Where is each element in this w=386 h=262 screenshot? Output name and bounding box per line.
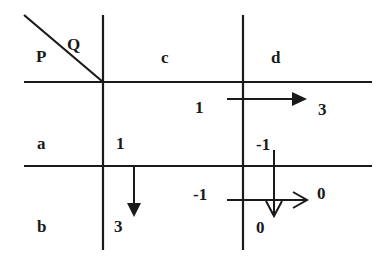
cell-ad-left-payoff: 1 [195,98,204,117]
cell-bd-left-payoff: -1 [193,185,207,204]
cell-ad-top-payoff: -1 [256,135,270,154]
arrow-right-filled-icon [227,92,307,106]
cell-bd-right-payoff: 0 [317,184,326,203]
cell-bd-bottom-payoff: 0 [256,218,265,237]
col-player-label: Q [67,35,80,54]
row-player-label: P [36,47,46,66]
arrow-down-open-icon [266,150,282,216]
arrow-right-open-icon [227,192,307,208]
row-header-b: b [37,217,46,236]
arrow-down-filled-icon [127,166,141,217]
cell-bc-payoff: 3 [114,217,123,236]
column-header-d: d [271,48,281,67]
row-header-a: a [37,134,46,153]
cell-ad-right-payoff: 3 [318,100,327,119]
game-matrix-diagram: P Q c d a b 1 3 1 3 -1 -1 0 0 [0,0,386,262]
column-header-c: c [161,48,169,67]
cell-ac-payoff: 1 [116,134,125,153]
